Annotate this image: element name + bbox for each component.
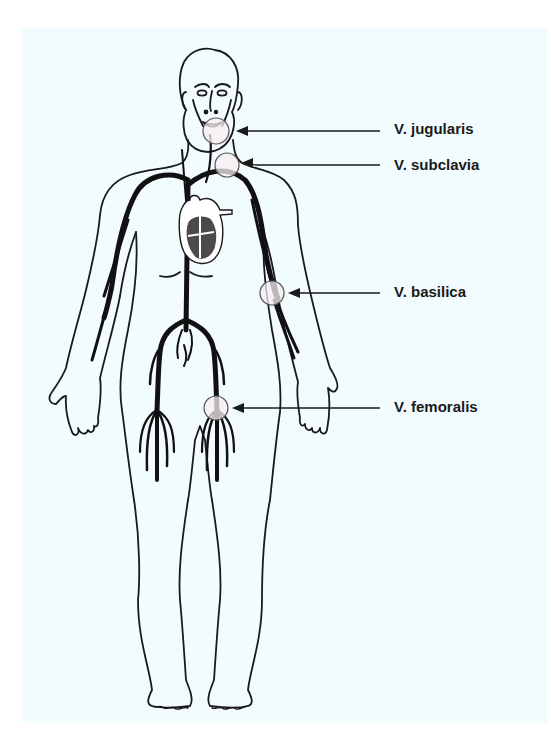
arrowhead-subclavia bbox=[241, 158, 253, 168]
arrow-subclavia bbox=[244, 163, 380, 165]
nose bbox=[210, 91, 212, 111]
left-eye bbox=[198, 90, 207, 95]
cephalic-vein-left bbox=[104, 220, 128, 296]
label-v-basilica: V. basilica bbox=[394, 283, 466, 300]
cheek-line-left bbox=[193, 100, 203, 126]
subclavian-vein-left bbox=[104, 175, 188, 318]
label-v-femoralis: V. femoralis bbox=[394, 398, 478, 415]
arrowhead-jugularis bbox=[236, 126, 248, 136]
label-v-subclavia: V. subclavia bbox=[394, 156, 479, 173]
highlight-basilica bbox=[260, 281, 284, 305]
right-leg-outer bbox=[208, 500, 270, 708]
arrowhead-femoralis bbox=[232, 403, 244, 413]
left-nostril bbox=[205, 111, 208, 114]
abdomen-line-left bbox=[160, 272, 180, 277]
arrowhead-basilica bbox=[288, 288, 300, 298]
body-illustration bbox=[0, 0, 551, 742]
right-eye bbox=[218, 90, 227, 95]
left-leg-outer bbox=[134, 500, 192, 708]
left-eyebrow bbox=[195, 84, 209, 87]
highlight-jugularis bbox=[203, 118, 229, 144]
right-ear bbox=[238, 92, 242, 110]
torso-side-left bbox=[120, 232, 136, 500]
right-eyebrow bbox=[215, 84, 230, 87]
highlight-femoralis bbox=[204, 396, 228, 420]
highlight-subclavia bbox=[215, 153, 239, 177]
label-v-jugularis: V. jugularis bbox=[394, 120, 473, 137]
pelvic-veins bbox=[177, 330, 192, 366]
abdomen-line-right bbox=[190, 272, 212, 277]
heart-icon bbox=[179, 196, 232, 264]
torso-left bbox=[49, 140, 188, 435]
forearm-vein-right bbox=[274, 300, 294, 358]
forearm-vein-left bbox=[92, 290, 112, 360]
right-nostril bbox=[215, 111, 218, 114]
